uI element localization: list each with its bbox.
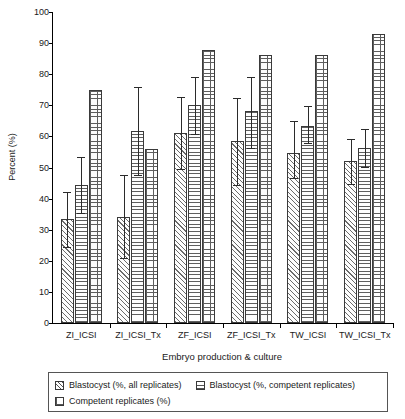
legend-item-1: Blastocyst (%, competent replicates) (196, 380, 356, 390)
legend-item-0: Blastocyst (%, all replicates) (55, 380, 182, 390)
bar (358, 148, 371, 323)
error-bar-cap-lower (361, 167, 369, 168)
error-bar (124, 175, 125, 257)
legend-label-0: Blastocyst (%, all replicates) (69, 380, 182, 390)
bar (145, 149, 158, 323)
error-bar (308, 106, 309, 143)
bar-group (223, 12, 280, 323)
y-axis-tick-mark (49, 323, 53, 324)
legend-item-2: Competent replicates (%) (55, 396, 171, 406)
bar (315, 55, 328, 323)
plot-area: 0102030405060708090100ZI_ICSIZI_ICSI_TxZ… (52, 12, 393, 324)
error-bar-cap-lower (191, 134, 199, 135)
bar-group (53, 12, 110, 323)
error-bar-cap-upper (77, 157, 85, 158)
y-axis-tick-label: 90 (39, 38, 49, 48)
legend-row-1: Blastocyst (%, all replicates) Blastocys… (55, 377, 381, 393)
legend-swatch-cross-hatch-icon (55, 397, 64, 406)
legend-row-2: Competent replicates (%) (55, 393, 381, 409)
y-axis-tick-label: 100 (34, 7, 49, 17)
error-bar-cap-lower (177, 169, 185, 170)
error-bar-cap-upper (290, 121, 298, 122)
error-bar-cap-upper (233, 98, 241, 99)
error-bar-cap-upper (304, 106, 312, 107)
y-axis-tick-label: 80 (39, 69, 49, 79)
error-bar (138, 87, 139, 176)
error-bar (181, 97, 182, 169)
error-bar-cap-upper (191, 77, 199, 78)
bar-group (166, 12, 223, 323)
x-axis-tick-label: TW_ICSI (290, 330, 327, 340)
x-axis-tick-label: TW_ICSI_Tx (339, 330, 391, 340)
x-axis-tick-mark (336, 323, 337, 328)
error-bar-cap-upper (134, 87, 142, 88)
legend-label-2: Competent replicates (%) (69, 396, 171, 406)
error-bar (351, 139, 352, 184)
x-axis-tick-mark (393, 323, 394, 328)
error-bar-cap-lower (77, 213, 85, 214)
y-axis-tick-label: 50 (39, 163, 49, 173)
x-axis-tick-label: ZI_ICSI (66, 330, 97, 340)
x-axis-title: Embryo production & culture (52, 351, 392, 362)
error-bar-cap-upper (177, 97, 185, 98)
error-bar-cap-lower (120, 258, 128, 259)
x-axis-tick-label: ZF_ICSI (178, 330, 212, 340)
error-bar (195, 77, 196, 134)
error-bar-cap-upper (347, 139, 355, 140)
error-bar (294, 121, 295, 178)
bar-chart-figure: Percent (%) 0102030405060708090100ZI_ICS… (0, 0, 405, 419)
error-bar-cap-upper (247, 77, 255, 78)
error-bar-cap-lower (63, 247, 71, 248)
y-axis-tick-label: 70 (39, 100, 49, 110)
error-bar (251, 77, 252, 149)
legend-label-1: Blastocyst (%, competent replicates) (210, 380, 356, 390)
error-bar (365, 129, 366, 167)
error-bar (237, 98, 238, 185)
error-bar-cap-upper (120, 175, 128, 176)
bar (372, 34, 385, 323)
y-axis-tick-label: 0 (44, 318, 49, 328)
bar (301, 126, 314, 323)
error-bar-cap-lower (347, 184, 355, 185)
error-bar-cap-upper (361, 129, 369, 130)
x-axis-tick-mark (280, 323, 281, 328)
chart-legend: Blastocyst (%, all replicates) Blastocys… (48, 372, 388, 412)
x-axis-tick-mark (110, 323, 111, 328)
bar (188, 105, 201, 323)
bar (259, 55, 272, 323)
y-axis-tick-label: 10 (39, 287, 49, 297)
error-bar-cap-lower (233, 185, 241, 186)
y-axis-tick-label: 40 (39, 194, 49, 204)
y-axis-tick-label: 30 (39, 225, 49, 235)
error-bar-cap-lower (134, 175, 142, 176)
error-bar-cap-lower (290, 178, 298, 179)
legend-swatch-diagonal-hatch-icon (55, 381, 64, 390)
x-axis-tick-label: ZF_ICSI_Tx (227, 330, 276, 340)
bar (344, 161, 357, 323)
bar-group (280, 12, 337, 323)
error-bar-cap-lower (247, 148, 255, 149)
x-axis-tick-mark (166, 323, 167, 328)
bar-group (336, 12, 393, 323)
error-bar-cap-upper (63, 192, 71, 193)
y-axis-title: Percent (%) (7, 107, 17, 207)
x-axis-tick-label: ZI_ICSI_Tx (115, 330, 161, 340)
bar (202, 50, 215, 323)
legend-swatch-horizontal-hatch-icon (196, 381, 205, 390)
y-axis-tick-label: 20 (39, 256, 49, 266)
y-axis-tick-label: 60 (39, 131, 49, 141)
error-bar (81, 157, 82, 213)
bar-group (110, 12, 167, 323)
bar (89, 90, 102, 323)
x-axis-tick-mark (223, 323, 224, 328)
error-bar-cap-lower (304, 143, 312, 144)
error-bar (67, 192, 68, 246)
